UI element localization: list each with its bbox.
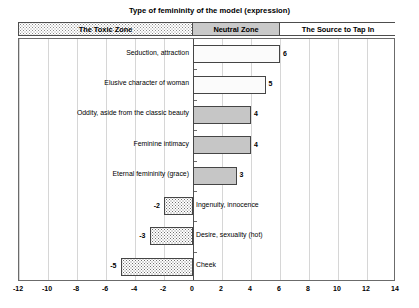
bar: [164, 197, 193, 215]
category-label: Ingenuity, innocence: [196, 202, 259, 209]
zone-header-the-source-to-tap-in: The Source to Tap In: [280, 23, 396, 35]
bar: [193, 45, 280, 63]
gridline: [77, 39, 78, 280]
x-axis-tick-label: 0: [190, 285, 194, 292]
x-axis-tick-label: 10: [333, 285, 341, 292]
bar: [121, 258, 194, 276]
zone-header-the-toxic-zone: The Toxic Zone: [19, 23, 193, 35]
zone-header-band: The Toxic ZoneNeutral ZoneThe Source to …: [18, 22, 395, 36]
x-axis-tick-label: 4: [248, 285, 252, 292]
gridline: [338, 39, 339, 280]
axis-tick: [194, 69, 197, 70]
axis-tick: [194, 100, 197, 101]
category-label: Oddity, aside from the classic beauty: [77, 110, 189, 117]
bar: [193, 76, 266, 94]
bar: [193, 106, 251, 124]
gridline: [367, 39, 368, 280]
data-label: -2: [154, 202, 160, 209]
x-axis-tick-label: 2: [219, 285, 223, 292]
gridline: [19, 39, 20, 280]
chart-title: Type of femininity of the model (express…: [0, 6, 419, 15]
x-axis-tick-label: -10: [42, 285, 52, 292]
gridline: [48, 39, 49, 280]
category-label: Feminine intimacy: [133, 141, 189, 148]
gridline: [106, 39, 107, 280]
x-axis-tick-label: 6: [277, 285, 281, 292]
plot-area: [18, 38, 395, 281]
category-label: Eternal femininity (grace): [112, 171, 189, 178]
chart-container: Type of femininity of the model (express…: [0, 0, 419, 308]
data-label: 3: [240, 171, 244, 178]
category-label: Cheek: [196, 262, 216, 269]
zone-label: Neutral Zone: [213, 25, 258, 34]
x-axis-tick-label: -4: [131, 285, 137, 292]
zone-header-neutral-zone: Neutral Zone: [193, 23, 280, 35]
bar: [150, 227, 194, 245]
gridline: [309, 39, 310, 280]
category-label: Seduction, attraction: [126, 50, 189, 57]
x-axis-tick-label: 12: [362, 285, 370, 292]
data-label: -5: [110, 262, 116, 269]
axis-tick: [194, 130, 197, 131]
gridline: [135, 39, 136, 280]
bar: [193, 167, 237, 185]
x-axis-tick-label: -6: [102, 285, 108, 292]
axis-tick: [194, 252, 197, 253]
axis-tick: [194, 161, 197, 162]
category-label: Elusive character of woman: [104, 80, 189, 87]
axis-tick: [194, 221, 197, 222]
x-axis-tick-label: 14: [391, 285, 399, 292]
x-axis-tick-label: 8: [306, 285, 310, 292]
bar: [193, 136, 251, 154]
data-label: -3: [139, 232, 145, 239]
data-label: 6: [283, 50, 287, 57]
x-axis-tick-label: -12: [13, 285, 23, 292]
data-label: 5: [269, 80, 273, 87]
category-label: Desire, sexuality (hot): [196, 232, 263, 239]
data-label: 4: [254, 110, 258, 117]
data-label: 4: [254, 141, 258, 148]
zone-label: The Toxic Zone: [79, 25, 133, 34]
x-axis-tick-label: -2: [160, 285, 166, 292]
zone-label: The Source to Tap In: [302, 25, 375, 34]
gridline: [280, 39, 281, 280]
x-axis-tick-label: -8: [73, 285, 79, 292]
axis-tick: [194, 191, 197, 192]
